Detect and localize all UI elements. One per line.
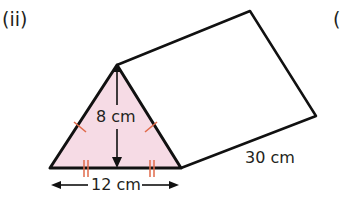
arrow-right-icon [169, 181, 179, 189]
length-label: 30 cm [245, 150, 295, 166]
height-label: 8 cm [96, 109, 136, 125]
prism-diagram [0, 0, 340, 216]
arrow-left-icon [51, 181, 61, 189]
base-label: 12 cm [91, 177, 141, 193]
